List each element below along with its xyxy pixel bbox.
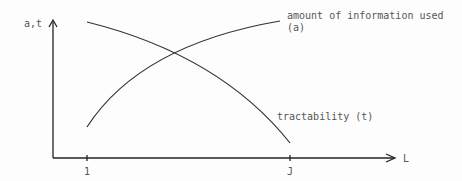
tractability-curve: [87, 22, 290, 143]
tradeoff-diagram: a,t L 1 J tractability (t) amount of inf…: [0, 0, 462, 181]
x-axis-label: L: [403, 153, 409, 164]
x-tick-label-j: J: [287, 166, 293, 177]
tractability-label: tractability (t): [277, 111, 373, 122]
x-tick-label-1: 1: [84, 166, 90, 177]
information-label-line1: amount of information used: [287, 10, 444, 21]
y-axis-label: a,t: [24, 18, 42, 29]
information-curve: [87, 21, 280, 127]
information-label-line2: (a): [287, 22, 305, 33]
